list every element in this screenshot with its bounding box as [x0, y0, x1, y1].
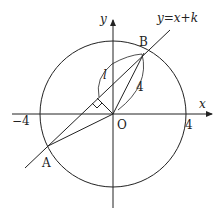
diagram-canvas [0, 0, 219, 212]
segment-l-label: l [103, 69, 107, 81]
line-label: y=x+k [157, 12, 198, 24]
origin-label: O [117, 119, 127, 131]
brace-l-2 [112, 54, 142, 64]
point-A-label: A [42, 157, 51, 169]
segment-OA [48, 114, 113, 146]
tick-pos4: 4 [185, 119, 193, 131]
right-angle-mark [92, 103, 102, 108]
tick-neg4: −4 [12, 115, 30, 127]
y-axis-label: y [100, 13, 107, 25]
radius-label: 4 [136, 81, 144, 93]
point-B-label: B [139, 36, 148, 48]
x-axis-label: x [199, 98, 206, 110]
